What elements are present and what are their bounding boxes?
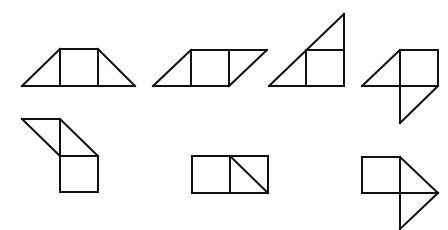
edge-line — [60, 119, 98, 156]
figure-3 — [269, 14, 344, 86]
figure-7 — [362, 157, 438, 229]
edge-line — [153, 50, 191, 86]
edge-line — [22, 49, 60, 86]
diagram-canvas — [0, 0, 448, 230]
figure-5 — [22, 119, 98, 192]
edge-line — [22, 119, 60, 156]
edge-line — [400, 193, 438, 229]
figure-4 — [362, 50, 438, 123]
figure-6 — [192, 156, 268, 193]
figure-2 — [153, 50, 267, 86]
figure-1 — [22, 49, 135, 86]
edge-line — [400, 157, 438, 193]
edge-line — [229, 50, 267, 86]
edge-line — [362, 50, 400, 86]
edge-line — [98, 49, 135, 86]
edge-line — [400, 86, 438, 123]
edge-line — [230, 156, 268, 193]
